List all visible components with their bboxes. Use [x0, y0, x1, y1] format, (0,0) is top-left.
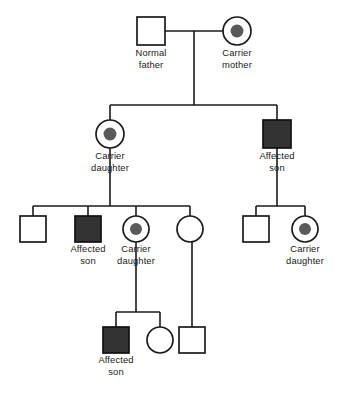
pedigree-symbol-male-normal[interactable]: [243, 216, 269, 242]
label-line: father: [139, 59, 164, 70]
label-line: Carrier: [95, 150, 124, 161]
pedigree-symbol-female-carrier[interactable]: [123, 216, 149, 242]
unaffected-female-circle: [177, 216, 203, 242]
label-line: Normal: [136, 47, 167, 58]
pedigree-chart-container: NormalfatherCarriermotherCarrierdaughter…: [0, 0, 339, 396]
symbol-layer: [20, 17, 318, 353]
connector-layer: [33, 31, 305, 327]
label-line: Affected: [259, 150, 294, 161]
label-line: son: [269, 162, 284, 173]
pedigree-symbol-female-carrier[interactable]: [223, 17, 251, 45]
label-line: Carrier: [222, 47, 251, 58]
label-line: daughter: [117, 255, 155, 266]
pedigree-symbol-male-affected[interactable]: [103, 327, 129, 353]
pedigree-member-label: Carriermother: [222, 47, 252, 70]
unaffected-female-circle: [147, 327, 173, 353]
pedigree-member-label: Carrierdaughter: [117, 243, 155, 266]
pedigree-symbol-female-normal[interactable]: [147, 327, 173, 353]
carrier-center-dot-icon: [130, 223, 142, 235]
label-line: Carrier: [290, 243, 319, 254]
pedigree-symbol-male-affected[interactable]: [75, 216, 101, 242]
pedigree-member-label: Carrierdaughter: [91, 150, 129, 173]
label-line: Carrier: [121, 243, 150, 254]
affected-male-square: [103, 327, 129, 353]
label-line: Affected: [98, 354, 133, 365]
unaffected-male-square: [179, 327, 205, 353]
affected-male-square: [75, 216, 101, 242]
pedigree-member-label: Carrierdaughter: [286, 243, 324, 266]
pedigree-symbol-male-normal[interactable]: [137, 17, 165, 45]
pedigree-member-label: Normalfather: [136, 47, 167, 70]
pedigree-symbol-male-normal[interactable]: [20, 216, 46, 242]
pedigree-member-label: Affectedson: [98, 354, 133, 377]
affected-male-square: [263, 120, 291, 148]
pedigree-member-label: Affectedson: [70, 243, 105, 266]
pedigree-canvas: NormalfatherCarriermotherCarrierdaughter…: [0, 0, 339, 396]
pedigree-symbol-male-normal[interactable]: [179, 327, 205, 353]
unaffected-male-square: [243, 216, 269, 242]
pedigree-member-label: Affectedson: [259, 150, 294, 173]
label-line: daughter: [91, 162, 129, 173]
label-line: Affected: [70, 243, 105, 254]
label-line: son: [80, 255, 95, 266]
carrier-center-dot-icon: [299, 223, 311, 235]
label-line: son: [108, 366, 123, 377]
carrier-center-dot-icon: [104, 128, 117, 141]
pedigree-symbol-female-carrier[interactable]: [292, 216, 318, 242]
unaffected-male-square: [137, 17, 165, 45]
pedigree-symbol-female-normal[interactable]: [177, 216, 203, 242]
label-line: daughter: [286, 255, 324, 266]
pedigree-symbol-female-carrier[interactable]: [96, 120, 124, 148]
carrier-center-dot-icon: [231, 25, 244, 38]
label-line: mother: [222, 59, 252, 70]
unaffected-male-square: [20, 216, 46, 242]
pedigree-symbol-male-affected[interactable]: [263, 120, 291, 148]
